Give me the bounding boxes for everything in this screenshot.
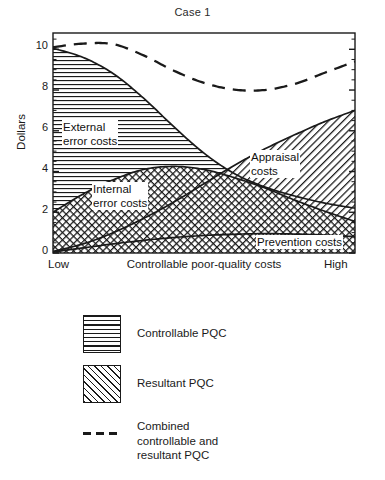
dashed-line-swatch-icon (83, 415, 121, 453)
figure-case-1: Case 1 Dollars 10 8 6 4 2 0 (0, 0, 385, 480)
legend-label-combined-pqc: Combined controllable and resultant PQC (137, 415, 218, 463)
legend-label-combined-line-3: resultant PQC (137, 448, 218, 463)
annotation-appraisal-line-1: Appraisal (251, 150, 299, 164)
legend-label-combined-line-1: Combined (137, 419, 218, 434)
diagonal-hatch-swatch-icon (83, 365, 121, 403)
annotation-external-line-1: External (63, 120, 117, 134)
x-axis-high-label: High (324, 258, 348, 270)
legend-label-controllable-pqc: Controllable PQC (137, 315, 226, 341)
legend-label-resultant-pqc: Resultant PQC (137, 365, 214, 391)
annotation-appraisal-costs: Appraisal costs (250, 150, 300, 178)
annotation-internal-line-1: Internal (93, 182, 147, 196)
annotation-appraisal-line-2: costs (251, 164, 299, 178)
annotation-external-error-costs: External error costs (62, 120, 118, 148)
horizontal-lines-swatch-icon (83, 315, 121, 353)
annotation-prevention-costs: Prevention costs (256, 235, 343, 249)
legend-label-combined-line-2: controllable and (137, 434, 218, 449)
legend-item-combined-pqc: Combined controllable and resultant PQC (0, 415, 385, 463)
chart-plot-area (0, 0, 385, 300)
chart-legend: Controllable PQC Resultant PQC Combined … (0, 315, 385, 475)
x-axis-title: Controllable poor-quality costs (53, 258, 355, 270)
legend-item-resultant-pqc: Resultant PQC (0, 365, 385, 403)
annotation-external-line-2: error costs (63, 134, 117, 148)
legend-item-controllable-pqc: Controllable PQC (0, 315, 385, 353)
annotation-internal-line-2: error costs (93, 196, 147, 210)
annotation-internal-error-costs: Internal error costs (92, 182, 148, 210)
